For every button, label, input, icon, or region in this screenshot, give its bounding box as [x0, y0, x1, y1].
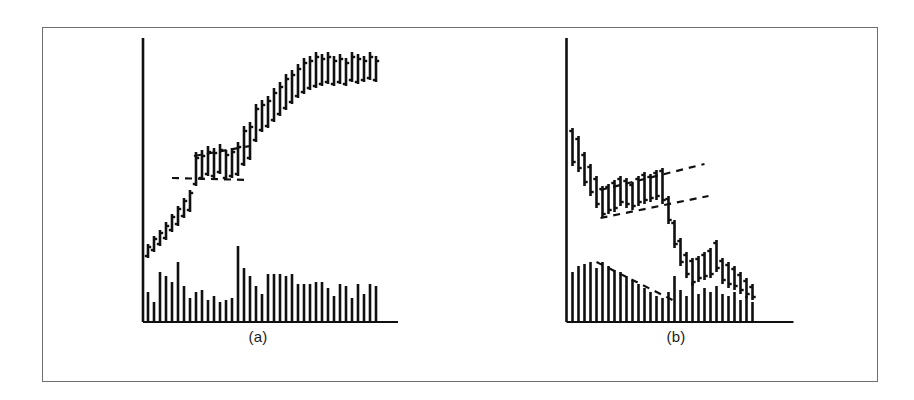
- price-bar: [205, 146, 211, 176]
- trendline-flag-upper-boundary: [601, 164, 705, 190]
- volume-bar-group: [148, 246, 376, 322]
- price-bar: [157, 230, 163, 246]
- price-bar: [181, 198, 187, 218]
- price-bar: [175, 206, 181, 226]
- price-bar: [641, 172, 647, 204]
- price-bar: [671, 220, 677, 248]
- price-bar: [163, 222, 169, 240]
- price-bar: [373, 56, 379, 82]
- price-bar: [737, 272, 743, 294]
- price-bar: [217, 144, 223, 174]
- price-bar: [701, 252, 707, 280]
- price-bar: [575, 136, 581, 172]
- price-bar: [169, 214, 175, 232]
- volume-bar-group: [573, 262, 753, 322]
- price-bar: [599, 186, 605, 218]
- price-bar: [629, 182, 635, 210]
- price-bar: [307, 56, 313, 90]
- price-bar: [713, 240, 719, 272]
- price-bar: [193, 152, 199, 186]
- figure-border: (a) (b): [42, 27, 878, 382]
- price-bar: [223, 150, 229, 180]
- price-bar: [259, 100, 265, 132]
- price-bar: [319, 54, 325, 86]
- price-bar: [731, 266, 737, 290]
- trendline-flag-lower-boundary: [172, 178, 250, 180]
- price-bar: [677, 238, 683, 266]
- price-bar: [725, 262, 731, 288]
- price-bar: [247, 122, 253, 160]
- price-bar: [689, 258, 695, 286]
- price-bar: [325, 52, 331, 84]
- chart-panel-a: (a): [43, 28, 473, 383]
- price-bar: [593, 176, 599, 208]
- price-bar: [289, 70, 295, 104]
- price-bar: [265, 96, 271, 128]
- price-bar: [707, 248, 713, 278]
- price-bar: [271, 88, 277, 122]
- ohlc-volume-chart-b: [473, 28, 879, 328]
- price-bar: [617, 176, 623, 206]
- price-bar-group: [145, 52, 379, 258]
- price-bar: [361, 56, 367, 82]
- price-bar: [647, 174, 653, 202]
- price-bar: [743, 278, 749, 298]
- price-bar: [301, 58, 307, 94]
- price-bar: [569, 128, 575, 166]
- price-bar: [665, 196, 671, 224]
- price-bar: [749, 284, 755, 300]
- price-bar: [253, 104, 259, 142]
- price-bar: [187, 190, 193, 212]
- chart-panel-b: (b): [473, 28, 879, 383]
- price-bar: [343, 58, 349, 86]
- price-bar: [229, 148, 235, 178]
- price-bar: [355, 54, 361, 84]
- panel-caption-a: (a): [43, 328, 473, 345]
- price-bar: [581, 152, 587, 186]
- price-bar: [349, 52, 355, 82]
- price-bar: [653, 170, 659, 200]
- price-bar: [283, 74, 289, 110]
- price-bar: [337, 54, 343, 84]
- price-bar: [367, 52, 373, 80]
- price-bar: [719, 258, 725, 284]
- price-bar: [331, 56, 337, 86]
- price-bar: [587, 164, 593, 196]
- price-bar: [611, 180, 617, 212]
- ohlc-volume-chart-a: [43, 28, 473, 328]
- price-bar: [295, 64, 301, 98]
- panel-caption-b: (b): [473, 328, 879, 345]
- figure-root: (a) (b): [0, 0, 914, 400]
- price-bar: [695, 256, 701, 282]
- price-bar: [683, 252, 689, 278]
- price-bar: [277, 82, 283, 116]
- price-bar: [151, 236, 157, 252]
- price-bar: [313, 52, 319, 88]
- price-bar: [145, 244, 151, 258]
